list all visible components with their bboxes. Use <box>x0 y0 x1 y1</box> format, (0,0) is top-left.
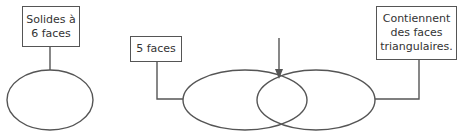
label-six-faces-text: Solides à 6 faces <box>26 13 76 41</box>
connector-triangular <box>375 60 419 99</box>
set-triangular-faces <box>257 70 375 130</box>
label-triangular-text: Contiennent des faces triangulaires. <box>380 12 453 54</box>
set-six-faces <box>7 70 93 130</box>
label-five-faces-text: 5 faces <box>136 42 176 56</box>
set-five-faces <box>183 70 307 130</box>
connector-five-faces <box>157 62 183 99</box>
label-five-faces: 5 faces <box>130 36 182 62</box>
label-six-faces: Solides à 6 faces <box>22 6 80 47</box>
label-triangular-faces: Contiennent des faces triangulaires. <box>376 6 457 60</box>
